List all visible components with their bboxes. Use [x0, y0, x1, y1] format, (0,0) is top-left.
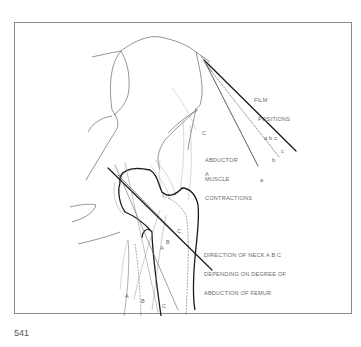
direction-of-neck-label: DIRECTION OF NECK A B C DEPENDING ON DEG… [204, 239, 286, 303]
label-line: a b c [254, 135, 290, 141]
pelvis-outline [70, 37, 210, 244]
label-line: DEPENDING ON DEGREE OF [204, 271, 286, 277]
film-marker-a: a [260, 177, 263, 183]
label-line: FILM [254, 97, 290, 103]
label-line: POSITIONS [254, 116, 290, 122]
shaft-marker-A: A [125, 293, 129, 299]
label-line: DIRECTION OF NECK A B C [204, 252, 286, 258]
neck-marker-A: A [160, 245, 164, 251]
shaft-marker-B: B [141, 298, 145, 304]
figure-number: 541 [14, 328, 29, 338]
shaft-marker-C: C [162, 303, 166, 309]
film-positions-label: FILM POSITIONS a b c [254, 84, 290, 148]
film-marker-c: c [281, 148, 284, 154]
abductor-label: ABDUCTOR MUSCLE CONTRACTIONS [205, 144, 252, 208]
muscle-marker-A: A [205, 171, 209, 177]
muscle-marker-C: C [202, 130, 206, 136]
label-line: MUSCLE [205, 176, 252, 182]
neck-marker-C: C [177, 228, 181, 234]
neck-marker-B: B [166, 239, 170, 245]
hip-radiograph-diagram [0, 0, 361, 347]
label-line: ABDUCTOR [205, 157, 252, 163]
film-marker-b: b [272, 157, 275, 163]
label-line: ABDUCTION OF FEMUR [204, 290, 286, 296]
label-line: CONTRACTIONS [205, 195, 252, 201]
